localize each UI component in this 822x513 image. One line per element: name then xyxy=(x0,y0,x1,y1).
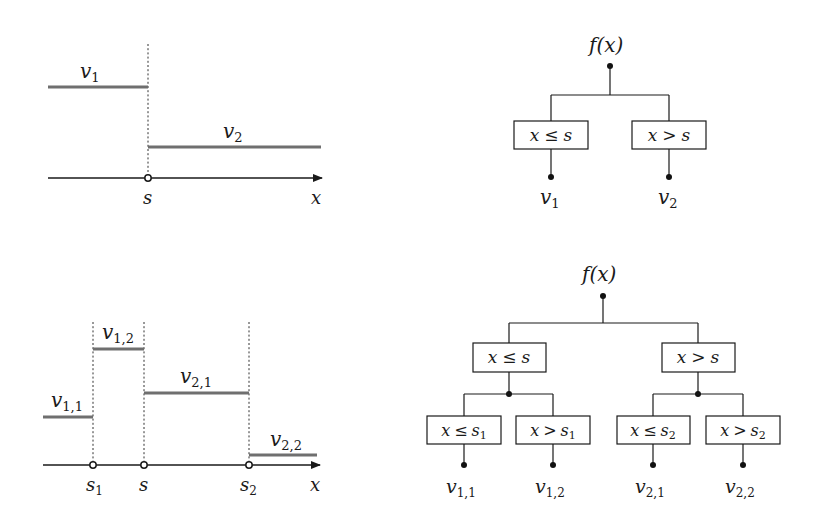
top-left-step-plot: v1 v2 s x xyxy=(48,44,322,208)
leaf-label-v1: v1 xyxy=(540,185,560,211)
node-x-gt-s: x>s xyxy=(662,343,735,372)
svg-text:x>s: x>s xyxy=(648,125,691,145)
leaf-dot-v21 xyxy=(650,462,656,468)
svg-text:x≤s: x≤s xyxy=(530,125,573,145)
split-point-marker xyxy=(145,175,151,181)
leaf-dot-v12 xyxy=(550,462,556,468)
bottom-right-tree: f(x) x≤s x>s xyxy=(427,262,780,500)
node-x-gt-s: x>s xyxy=(632,121,706,149)
label-axis-x: x xyxy=(310,474,320,495)
node-x-le-s: x≤s xyxy=(514,121,588,149)
node-x-gt-s2: x>s2 xyxy=(706,416,780,444)
leaf-label-v11: v1,1 xyxy=(446,475,476,500)
node-x-le-s1: x≤s1 xyxy=(427,416,501,444)
svg-text:x≤s: x≤s xyxy=(488,347,531,367)
svg-text:x>s: x>s xyxy=(677,347,720,367)
label-split-s: s xyxy=(143,187,152,208)
label-v2: v2 xyxy=(223,119,243,145)
node-x-le-s2: x≤s2 xyxy=(617,416,690,444)
root-label: f(x) xyxy=(587,33,623,57)
label-v11: v1,1 xyxy=(51,388,83,414)
label-v21: v2,1 xyxy=(180,364,212,390)
label-s2: s2 xyxy=(240,474,257,498)
leaf-label-v21: v2,1 xyxy=(635,475,665,500)
leaf-dot-v1 xyxy=(548,174,554,180)
decision-tree-figure: v1 v2 s x f(x) x≤s x>s xyxy=(0,0,822,513)
label-v22: v2,2 xyxy=(270,427,302,453)
label-v1: v1 xyxy=(80,59,100,85)
bottom-left-step-plot: v1,1 v1,2 v2,1 v2,2 s1 s s2 x xyxy=(43,320,320,498)
node-x-gt-s1: x>s1 xyxy=(516,416,590,444)
label-s1: s1 xyxy=(86,474,103,498)
leaf-label-v22: v2,2 xyxy=(725,475,755,500)
split-point-s1 xyxy=(90,462,96,468)
label-axis-x: x xyxy=(311,187,321,208)
top-right-tree: f(x) x≤s x>s v1 v2 xyxy=(514,33,706,211)
root-label: f(x) xyxy=(580,262,616,286)
leaf-label-v2: v2 xyxy=(658,185,678,211)
split-point-s2 xyxy=(246,462,252,468)
leaf-dot-v11 xyxy=(461,462,467,468)
node-x-le-s: x≤s xyxy=(473,343,546,372)
label-v12: v1,2 xyxy=(102,320,134,346)
leaf-label-v12: v1,2 xyxy=(535,475,565,500)
label-s: s xyxy=(139,474,148,495)
leaf-dot-v2 xyxy=(666,174,672,180)
leaf-dot-v22 xyxy=(740,462,746,468)
split-point-s xyxy=(141,462,147,468)
